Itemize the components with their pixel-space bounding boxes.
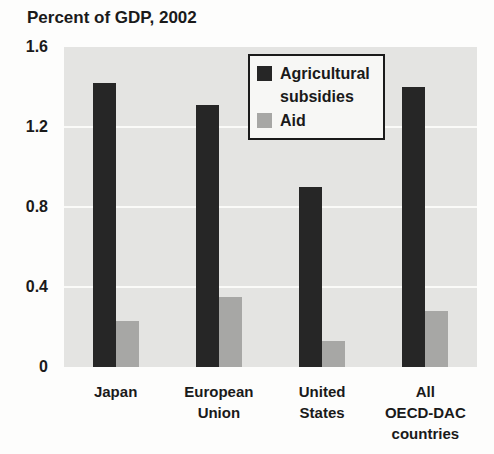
bar-group — [299, 187, 345, 367]
legend-item: Aid — [257, 109, 383, 132]
bar-chart-figure: Percent of GDP, 2002 1.61.20.80.40 Japan… — [0, 0, 494, 454]
bar-group — [93, 83, 139, 367]
category-label-line: All — [360, 381, 490, 402]
bar-aid — [425, 311, 448, 367]
bar-aid — [116, 321, 139, 367]
legend-label: Aid — [280, 109, 376, 132]
bar-aid — [219, 297, 242, 367]
bar-agricultural-subsidies — [402, 87, 425, 367]
bar-agricultural-subsidies — [299, 187, 322, 367]
category-label-line: OECD-DAC — [360, 402, 490, 423]
legend-label: Agricultural subsidies — [280, 62, 376, 108]
bar-aid — [322, 341, 345, 367]
category-label-line: countries — [360, 423, 490, 444]
bar-group — [402, 87, 448, 367]
bar-agricultural-subsidies — [196, 105, 219, 367]
category-label: AllOECD-DACcountries — [360, 381, 490, 444]
bar-group — [196, 105, 242, 367]
legend: Agricultural subsidiesAid — [248, 54, 385, 140]
legend-swatch-icon — [257, 66, 272, 81]
legend-item: Agricultural subsidies — [257, 62, 383, 108]
bar-agricultural-subsidies — [93, 83, 116, 367]
legend-swatch-icon — [257, 113, 272, 128]
